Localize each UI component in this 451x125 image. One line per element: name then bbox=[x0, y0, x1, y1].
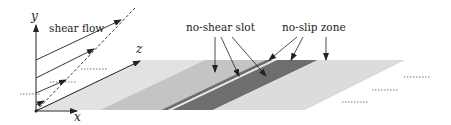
y-axis-label: y bbox=[30, 9, 38, 23]
shear-flow-diagram: y x z shear flow no-shear slot no-slip z… bbox=[0, 0, 451, 125]
velocity-arrow bbox=[36, 101, 44, 105]
wall-plane bbox=[36, 60, 405, 110]
no-slip-zone-label: no-slip zone bbox=[282, 21, 346, 33]
x-axis-label: x bbox=[74, 110, 81, 124]
velocity-arrow bbox=[36, 49, 94, 78]
shear-flow-label: shear flow bbox=[49, 22, 104, 34]
no-shear-slot-label: no-shear slot bbox=[186, 21, 256, 33]
z-axis-label: z bbox=[135, 42, 143, 56]
